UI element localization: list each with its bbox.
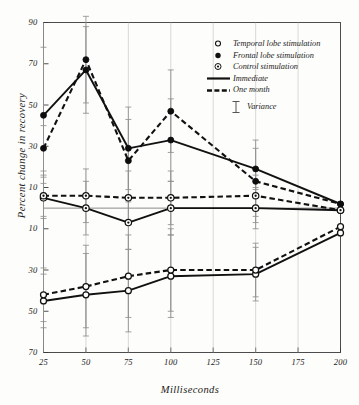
data-point-open-circle bbox=[83, 284, 89, 290]
data-point-circled-dot bbox=[83, 193, 89, 199]
data-point-filled-circle bbox=[125, 145, 131, 151]
data-point-filled-circle bbox=[253, 178, 259, 184]
filled-circle-marker bbox=[205, 50, 231, 61]
data-point-filled-circle bbox=[41, 145, 47, 151]
y-axis-tick-label: 30 bbox=[16, 141, 38, 151]
data-point-filled-circle bbox=[168, 108, 174, 114]
x-axis-tick-label: 50 bbox=[73, 357, 99, 367]
dashed-line-icon bbox=[205, 85, 231, 96]
legend-item-label: Temporal lobe stimulation bbox=[231, 38, 320, 50]
data-point-open-circle bbox=[338, 224, 344, 230]
x-axis-tick-label: 75 bbox=[115, 357, 141, 367]
data-point-circled-dot bbox=[125, 195, 131, 201]
series-line bbox=[44, 233, 341, 301]
x-axis-tick-label: 125 bbox=[200, 357, 226, 367]
open-circle-marker bbox=[205, 38, 231, 49]
data-point-open-circle bbox=[168, 273, 174, 279]
data-point-filled-circle bbox=[83, 67, 89, 73]
data-point-open-circle bbox=[168, 267, 174, 273]
solid-line-icon bbox=[205, 73, 231, 84]
y-axis-tick-label: 50 bbox=[16, 306, 38, 316]
data-point-open-circle bbox=[125, 273, 131, 279]
legend-item-label: Frontal lobe stimulation bbox=[231, 50, 314, 62]
legend-item: Immediate bbox=[205, 73, 320, 85]
data-point-open-circle bbox=[338, 230, 344, 236]
legend-item-label: Control stimulation bbox=[231, 61, 298, 73]
y-axis-tick-label: 30 bbox=[16, 265, 38, 275]
circled-dot-marker bbox=[205, 61, 231, 72]
data-point-circled-dot bbox=[252, 193, 258, 199]
dashed-line-marker bbox=[205, 85, 231, 96]
data-point-circled-dot bbox=[83, 205, 89, 211]
data-point-circled-dot bbox=[168, 195, 174, 201]
legend-item-label: Variance bbox=[245, 101, 277, 113]
data-point-filled-circle bbox=[41, 112, 47, 118]
circled-dot-icon bbox=[205, 61, 231, 72]
x-axis-tick-label: 200 bbox=[328, 357, 354, 367]
legend-item: Temporal lobe stimulation bbox=[205, 38, 320, 50]
data-point-open-circle bbox=[83, 292, 89, 298]
legend-item-label: Immediate bbox=[231, 73, 268, 85]
x-axis-tick-label: 150 bbox=[243, 357, 269, 367]
y-axis-tick-label: 70 bbox=[16, 58, 38, 68]
data-point-open-circle bbox=[41, 298, 47, 304]
y-axis-tick-label: 50 bbox=[16, 100, 38, 110]
legend-item-label: One month bbox=[231, 84, 270, 96]
y-axis-tick-label: 90 bbox=[16, 17, 38, 27]
data-point-filled-circle bbox=[253, 166, 259, 172]
data-point-filled-circle bbox=[83, 57, 89, 63]
data-point-open-circle bbox=[41, 292, 47, 298]
filled-circle-icon bbox=[205, 50, 231, 61]
data-point-filled-circle bbox=[338, 201, 344, 207]
x-axis-tick-label: 100 bbox=[158, 357, 184, 367]
data-point-open-circle bbox=[125, 288, 131, 294]
data-point-filled-circle bbox=[125, 158, 131, 164]
x-axis-tick-label: 175 bbox=[285, 357, 311, 367]
error-bar-icon bbox=[227, 100, 245, 114]
x-axis-tick-label: 25 bbox=[31, 357, 57, 367]
y-axis-tick-label: 10 bbox=[16, 223, 38, 233]
error-bar-marker bbox=[227, 100, 245, 114]
chart-figure: Percent change in recovery Milliseconds … bbox=[0, 0, 359, 405]
data-point-filled-circle bbox=[168, 137, 174, 143]
x-axis-label: Milliseconds bbox=[120, 384, 260, 395]
data-point-circled-dot bbox=[168, 205, 174, 211]
chart-legend: Temporal lobe stimulationFrontal lobe st… bbox=[205, 38, 320, 113]
solid-line-marker bbox=[205, 73, 231, 84]
open-circle-icon bbox=[205, 38, 231, 49]
y-axis-tick-label: 10 bbox=[16, 182, 38, 192]
data-point-open-circle bbox=[253, 267, 259, 273]
data-point-circled-dot bbox=[125, 219, 131, 225]
legend-item: One month bbox=[205, 84, 320, 96]
data-point-circled-dot bbox=[337, 207, 343, 213]
legend-item: Control stimulation bbox=[205, 61, 320, 73]
data-point-circled-dot bbox=[252, 205, 258, 211]
legend-item: Frontal lobe stimulation bbox=[205, 50, 320, 62]
data-point-circled-dot bbox=[40, 193, 46, 199]
legend-item: Variance bbox=[205, 101, 320, 113]
y-axis-tick-label: 70 bbox=[16, 347, 38, 357]
